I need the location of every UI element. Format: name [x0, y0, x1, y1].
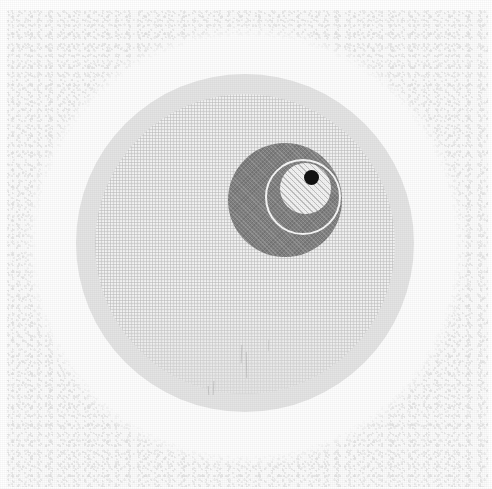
figure-canvas — [0, 0, 492, 489]
hatched-inner-disc — [280, 163, 331, 214]
mesh-field — [95, 94, 395, 394]
black-dot — [304, 170, 319, 185]
scratch-mark — [268, 340, 269, 351]
